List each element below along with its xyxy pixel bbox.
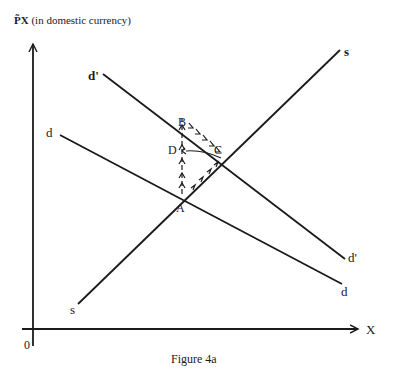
- demand-label-start: d: [46, 125, 53, 140]
- adjustment-path-a-to-b: [179, 118, 185, 194]
- supply-demand-diagram: 0 X s s d d d' d' A: [0, 0, 393, 377]
- demand-label-end: d: [341, 284, 348, 299]
- origin-label: 0: [24, 338, 30, 352]
- point-c-label: C: [214, 143, 222, 157]
- supply-label-end: s: [344, 44, 349, 59]
- supply-label-start: s: [70, 302, 75, 317]
- demand-curve: [60, 135, 342, 284]
- point-a-label: A: [176, 201, 185, 215]
- shifted-demand-label-end: d': [348, 250, 357, 265]
- shifted-demand-label-start: d': [88, 68, 99, 83]
- figure-caption: Figure 4a: [171, 352, 217, 367]
- adjustment-path-a-to-c: [191, 162, 218, 190]
- x-axis-label: X: [366, 322, 376, 337]
- shifted-demand-curve: [103, 74, 345, 259]
- point-b-label: B: [178, 115, 186, 129]
- point-d-label: D: [168, 143, 177, 157]
- supply-curve: [78, 50, 340, 304]
